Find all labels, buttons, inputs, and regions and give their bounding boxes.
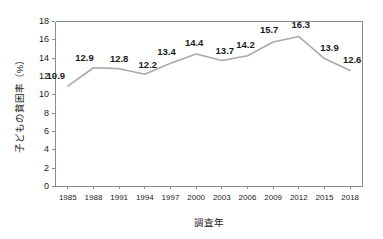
y-axis-title: 子どもの貧困率（%）: [14, 55, 25, 153]
y-tick-label: 8: [44, 108, 49, 118]
x-tick-label: 2015: [316, 193, 334, 202]
y-tick-label: 14: [39, 53, 49, 63]
y-tick-label: 16: [39, 34, 49, 44]
point-value-label: 16.3: [292, 19, 311, 30]
x-tick-label: 1994: [136, 193, 154, 202]
chart-container: 024681012141618 198519881991199419972000…: [0, 0, 383, 239]
x-tick-label: 2012: [290, 193, 308, 202]
x-tick-label: 1997: [162, 193, 180, 202]
line-chart: 024681012141618 198519881991199419972000…: [0, 0, 383, 239]
y-tick-label: 0: [44, 181, 49, 191]
point-value-label: 13.7: [216, 45, 235, 56]
plot-frame: [56, 22, 363, 187]
point-value-label: 14.2: [236, 39, 255, 50]
x-tick-label: 2006: [239, 193, 257, 202]
x-tick-label: 1985: [59, 193, 77, 202]
point-value-label: 12.8: [110, 53, 129, 64]
x-axis-ticks: 1985198819911994199720002003200620092012…: [59, 186, 360, 202]
point-value-label: 15.7: [260, 24, 279, 35]
x-tick-label: 2003: [213, 193, 231, 202]
y-tick-label: 4: [44, 144, 49, 154]
y-axis-ticks: 024681012141618: [39, 16, 55, 191]
point-value-label: 13.4: [157, 46, 176, 57]
point-value-label: 12.2: [139, 59, 158, 70]
point-value-label: 10.9: [47, 70, 66, 81]
point-value-label: 14.4: [185, 37, 204, 48]
x-tick-label: 1991: [110, 193, 128, 202]
point-value-label: 13.9: [320, 42, 339, 53]
y-tick-label: 18: [39, 16, 49, 26]
point-value-label: 12.9: [75, 52, 94, 63]
x-tick-label: 2018: [341, 193, 359, 202]
x-axis-title: 調査年: [194, 217, 224, 228]
y-tick-label: 6: [44, 126, 49, 136]
point-value-label: 12.6: [343, 54, 362, 65]
x-tick-label: 2009: [264, 193, 282, 202]
x-tick-label: 1988: [85, 193, 103, 202]
y-tick-label: 10: [39, 89, 49, 99]
x-tick-label: 2000: [187, 193, 205, 202]
y-tick-label: 2: [44, 163, 49, 173]
